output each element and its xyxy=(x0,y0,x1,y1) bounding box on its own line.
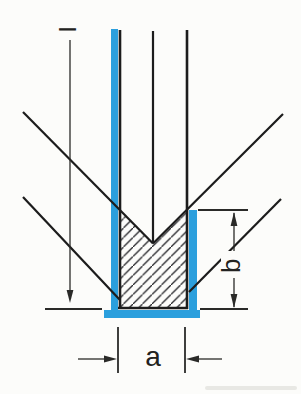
contour-right-band xyxy=(189,210,197,318)
contour-left-band xyxy=(111,29,118,318)
residual-arrow-up-icon xyxy=(231,212,238,226)
residual-arrow-down-icon xyxy=(231,294,238,308)
drill-tip-edge-left xyxy=(23,112,153,244)
diameter-arrow-right-icon xyxy=(104,356,117,363)
depth-arrow-down-icon xyxy=(67,290,74,303)
drill-tip-edge-right xyxy=(153,114,283,244)
drill-flank-edge-left xyxy=(23,197,120,300)
figure-canvas: l b a xyxy=(0,0,301,394)
diameter-label: a xyxy=(145,341,161,372)
dimension-residual-b: b xyxy=(198,210,248,309)
diameter-arrow-left-icon xyxy=(186,356,199,363)
dimension-diameter-a: a xyxy=(78,327,222,373)
contour-bottom-band xyxy=(104,310,200,318)
residual-label: b xyxy=(216,259,246,273)
technical-figure: l b a xyxy=(0,0,301,394)
drill-flank-edge-right xyxy=(189,199,281,292)
scan-artifact xyxy=(205,386,297,390)
depth-label: l xyxy=(54,27,81,32)
dimension-depth-l xyxy=(45,40,102,309)
